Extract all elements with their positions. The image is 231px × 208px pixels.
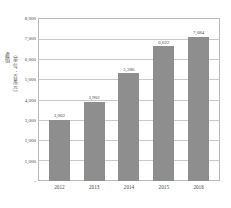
bar-value-label-2012: 3,002 xyxy=(54,113,65,118)
bar-value-label-2014: 5,286 xyxy=(123,67,134,72)
bar-chart: 產值 （單位：百萬元） 8,000 7,000 6,000 5,000 4,00… xyxy=(0,0,231,208)
bar-2014[interactable]: 5,286 xyxy=(118,73,139,181)
bar-value-label-2013: 3,902 xyxy=(89,95,100,100)
x-axis-ticks: 2012 2013 2014 2015 2016 xyxy=(38,184,220,190)
bar-slot-2014: 5,286 xyxy=(112,18,147,181)
bar-slot-2013: 3,902 xyxy=(77,18,112,181)
y-axis-ticks: 8,000 7,000 6,000 5,000 4,000 3,000 2,00… xyxy=(0,18,36,181)
bars-layer: 3,002 3,902 5,286 6,622 7,084 xyxy=(38,18,220,181)
bar-2013[interactable]: 3,902 xyxy=(84,102,105,182)
bar-value-label-2016: 7,084 xyxy=(193,30,204,35)
x-tick-2015: 2015 xyxy=(146,184,181,190)
bar-slot-2016: 7,084 xyxy=(181,18,216,181)
bar-value-label-2015: 6,622 xyxy=(158,40,169,45)
bar-slot-2015: 6,622 xyxy=(146,18,181,181)
x-tick-2014: 2014 xyxy=(112,184,147,190)
y-tick-3000: 3,000 xyxy=(2,117,36,122)
y-tick-7000: 7,000 xyxy=(2,36,36,41)
y-tick-8000: 8,000 xyxy=(2,16,36,21)
x-tick-2016: 2016 xyxy=(181,184,216,190)
y-tick-4000: 4,000 xyxy=(2,97,36,102)
bar-2016[interactable]: 7,084 xyxy=(188,37,209,181)
y-tick-5000: 5,000 xyxy=(2,77,36,82)
y-tick-2000: 2,000 xyxy=(2,138,36,143)
bar-2015[interactable]: 6,622 xyxy=(153,46,174,181)
y-tick-6000: 6,000 xyxy=(2,56,36,61)
y-tick-zero: - xyxy=(2,179,36,184)
y-tick-1000: 1,000 xyxy=(2,158,36,163)
x-tick-2012: 2012 xyxy=(42,184,77,190)
bar-slot-2012: 3,002 xyxy=(42,18,77,181)
bar-2012[interactable]: 3,002 xyxy=(49,120,70,181)
x-tick-2013: 2013 xyxy=(77,184,112,190)
